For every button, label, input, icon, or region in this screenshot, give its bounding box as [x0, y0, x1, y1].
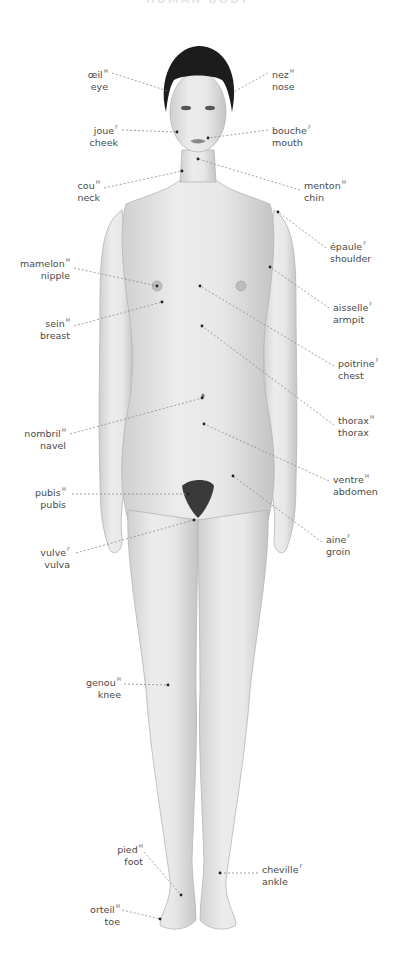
gender-marker: M [96, 179, 100, 185]
gender-marker: M [139, 843, 143, 849]
label-english: chin [304, 192, 346, 204]
anchor-dot-armpit [269, 266, 272, 269]
label-english: foot [117, 856, 143, 868]
label-french: nombrilM [24, 424, 66, 440]
anchor-dot-cheek [176, 131, 179, 134]
label-french: aineF [326, 530, 350, 546]
anchor-dot-eye [167, 90, 170, 93]
label-french: joueF [90, 121, 118, 137]
label-english: breast [40, 330, 70, 342]
anchor-dot-groin [232, 475, 235, 478]
label-english: abdomen [333, 486, 378, 498]
label-eye: œilMeye [88, 65, 108, 93]
anchor-dot-foot [180, 894, 183, 897]
label-shoulder: épauleFshoulder [330, 237, 371, 265]
label-french: boucheF [272, 121, 311, 137]
anchor-dot-neck [181, 170, 184, 173]
label-french: orteilM [90, 900, 120, 916]
gender-marker: F [369, 301, 372, 307]
label-nipple: mamelonMnipple [20, 254, 70, 282]
gender-marker: M [290, 68, 294, 74]
label-english: neck [77, 192, 100, 204]
label-french: couM [77, 176, 100, 192]
gender-marker: F [347, 533, 350, 539]
label-english: cheek [90, 137, 118, 149]
gender-marker: M [365, 473, 369, 479]
anchor-dot-thorax [201, 325, 204, 328]
label-breast: seinMbreast [40, 314, 70, 342]
label-neck: couMneck [77, 176, 100, 204]
label-nose: nezMnose [272, 65, 295, 93]
leader-line-toe [122, 910, 160, 919]
label-english: mouth [272, 137, 311, 149]
label-french: épauleF [330, 237, 371, 253]
label-french: piedM [117, 840, 143, 856]
label-foot: piedMfoot [117, 840, 143, 868]
anchor-dot-ankle [219, 872, 222, 875]
label-french: aisselleF [333, 298, 372, 314]
gender-marker: F [363, 240, 366, 246]
leader-line-cheek [122, 130, 177, 132]
label-french: poitrineF [338, 354, 379, 370]
label-english: groin [326, 546, 350, 558]
label-mouth: boucheFmouth [272, 121, 311, 149]
label-english: nipple [20, 270, 70, 282]
gender-marker: F [299, 863, 302, 869]
anchor-dot-knee [167, 684, 170, 687]
label-chest: poitrineFchest [338, 354, 379, 382]
label-french: mamelonM [20, 254, 70, 270]
label-pubis: pubisMpubis [35, 483, 66, 511]
leader-line-nose [232, 73, 268, 93]
anchor-dot-breast [161, 301, 164, 304]
label-english: nose [272, 81, 295, 93]
label-english: knee [86, 689, 121, 701]
anchor-dot-pubis [187, 493, 190, 496]
label-english: armpit [333, 314, 372, 326]
gender-marker: F [376, 357, 379, 363]
label-toe: orteilMtoe [90, 900, 120, 928]
label-french: mentonM [304, 176, 346, 192]
label-english: pubis [35, 499, 66, 511]
gender-marker: M [104, 68, 108, 74]
gender-marker: F [115, 124, 118, 130]
label-english: thorax [338, 427, 374, 439]
gender-marker: M [370, 414, 374, 420]
gender-marker: M [66, 257, 70, 263]
leader-line-neck [104, 171, 182, 188]
label-french: pubisM [35, 483, 66, 499]
label-french: genouM [86, 673, 121, 689]
gender-marker: M [116, 903, 120, 909]
anchor-dot-vulva [193, 519, 196, 522]
anchor-dot-chin [197, 158, 200, 161]
gender-marker: M [62, 486, 66, 492]
label-french: ventreM [333, 470, 378, 486]
anchor-dot-toe [159, 918, 162, 921]
leader-line-eye [112, 73, 168, 91]
anchor-dot-abdomen [203, 423, 206, 426]
label-english: toe [90, 916, 120, 928]
label-groin: aineFgroin [326, 530, 350, 558]
label-ankle: chevilleFankle [262, 860, 302, 888]
gender-marker: F [308, 124, 311, 130]
anchor-dot-mouth [207, 137, 210, 140]
anchor-dot-nose [231, 92, 234, 95]
label-english: ankle [262, 876, 302, 888]
label-thorax: thoraxMthorax [338, 411, 374, 439]
anchor-dot-navel [201, 397, 204, 400]
gender-marker: M [62, 427, 66, 433]
label-french: chevilleF [262, 860, 302, 876]
anchor-dot-shoulder [277, 211, 280, 214]
label-english: chest [338, 370, 379, 382]
label-french: nezM [272, 65, 295, 81]
label-navel: nombrilMnavel [24, 424, 66, 452]
label-armpit: aisselleFarmpit [333, 298, 372, 326]
label-french: seinM [40, 314, 70, 330]
label-cheek: joueFcheek [90, 121, 118, 149]
anchor-dot-chest [199, 285, 202, 288]
gender-marker: M [66, 317, 70, 323]
gender-marker: M [117, 676, 121, 682]
label-french: thoraxM [338, 411, 374, 427]
gender-marker: F [67, 546, 70, 552]
gender-marker: M [342, 179, 346, 185]
label-vulva: vulveFvulva [40, 543, 70, 571]
